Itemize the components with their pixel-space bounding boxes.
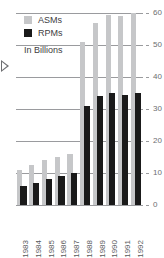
legend-label-rpms: RPMs xyxy=(38,28,63,38)
x-tick-label: 1988 xyxy=(85,240,94,258)
bar-rpms xyxy=(46,179,52,205)
x-tick-label: 1989 xyxy=(98,240,107,258)
bar-group xyxy=(106,13,119,205)
y-tick-label: 40 xyxy=(153,73,162,81)
x-tick-label: 1986 xyxy=(59,240,68,258)
bar-rpms xyxy=(20,186,26,205)
legend-item-asms: ASMs xyxy=(24,14,94,25)
bar-rpms xyxy=(71,173,77,205)
bar-group xyxy=(55,13,68,205)
legend-swatch-asms-icon xyxy=(24,16,32,24)
chart-subtitle: In Billions xyxy=(24,45,63,55)
x-tick-label: 1990 xyxy=(110,240,119,258)
y-tick-label: 50 xyxy=(153,41,162,49)
plot-area xyxy=(16,13,143,205)
y-tick-label: 0 xyxy=(153,201,157,209)
x-axis: 1983198419851986198719881989199019911992 xyxy=(16,206,143,244)
y-tick-mark xyxy=(146,141,149,142)
y-tick-mark xyxy=(146,45,149,46)
bar-group xyxy=(42,13,55,205)
legend-label-asms: ASMs xyxy=(38,15,62,25)
y-tick-label: 60 xyxy=(153,9,162,17)
bar-group xyxy=(67,13,80,205)
bar-rpms xyxy=(135,93,141,205)
x-tick-label: 1992 xyxy=(136,240,145,258)
bar-rpms xyxy=(109,93,115,205)
bar-rpms xyxy=(122,95,128,205)
chart-legend: ASMs RPMs xyxy=(24,14,94,40)
y-tick-mark xyxy=(146,77,149,78)
y-tick-label: 20 xyxy=(153,137,162,145)
left-pointer-icon-inner xyxy=(2,62,7,70)
bar-group xyxy=(93,13,106,205)
x-tick-label: 1984 xyxy=(34,240,43,258)
bar-rpms xyxy=(97,96,103,205)
y-tick-label: 30 xyxy=(153,105,162,113)
legend-item-rpms: RPMs xyxy=(24,27,94,38)
y-tick-mark xyxy=(146,13,149,14)
bar-group xyxy=(131,13,144,205)
legend-swatch-rpms-icon xyxy=(24,29,32,37)
y-tick-label: 10 xyxy=(153,169,162,177)
bar-group xyxy=(29,13,42,205)
x-tick-label: 1985 xyxy=(47,240,56,258)
bar-group xyxy=(80,13,93,205)
x-tick-label: 1991 xyxy=(123,240,132,258)
bar-group xyxy=(118,13,131,205)
y-tick-mark xyxy=(146,109,149,110)
bar-group xyxy=(17,13,30,205)
bar-rpms xyxy=(33,183,39,205)
x-tick-label: 1983 xyxy=(21,240,30,258)
y-axis: 0102030405060 xyxy=(146,0,164,244)
bar-rpms xyxy=(84,106,90,205)
x-tick-label: 1987 xyxy=(72,240,81,258)
bar-rpms xyxy=(58,176,64,205)
y-tick-mark xyxy=(146,205,149,206)
y-tick-mark xyxy=(146,173,149,174)
